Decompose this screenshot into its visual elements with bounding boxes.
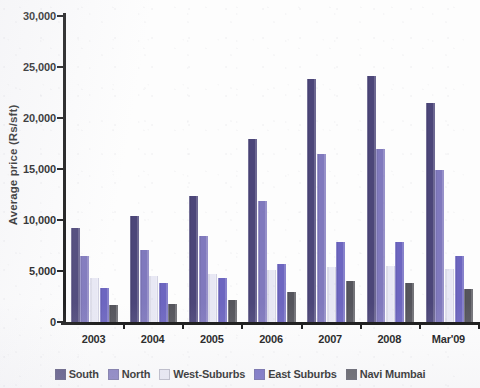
legend-item: South	[55, 368, 99, 380]
bar-fill	[386, 266, 395, 322]
bar	[90, 278, 99, 322]
y-axis-tick-label: 0	[50, 316, 56, 328]
gridline	[64, 67, 478, 68]
legend-item: West-Suburbs	[159, 368, 245, 380]
bar	[336, 242, 345, 322]
bar-fill	[228, 300, 237, 322]
bar-fill	[307, 79, 316, 322]
y-axis-tick-label: 5,000	[29, 265, 56, 277]
x-axis-tick	[419, 322, 421, 329]
bar-fill	[395, 242, 404, 322]
bar	[307, 79, 316, 322]
bar	[435, 170, 444, 322]
bar-fill	[405, 283, 414, 322]
bar-fill	[90, 278, 99, 322]
bar-fill	[336, 242, 345, 322]
bar	[267, 270, 276, 322]
y-axis-tick-label: 15,000	[23, 163, 56, 175]
bar	[405, 283, 414, 322]
gridline	[64, 118, 478, 119]
bar-fill	[346, 281, 355, 322]
bar	[208, 274, 217, 322]
bar-fill	[130, 216, 139, 322]
bar	[376, 149, 385, 322]
bar	[199, 236, 208, 322]
bar-fill	[258, 201, 267, 322]
bar-fill	[199, 236, 208, 322]
bar-fill	[168, 304, 177, 322]
x-axis-labels: 200320042005200620072008Mar'09	[64, 333, 478, 351]
bar	[140, 250, 149, 322]
bar-fill	[100, 288, 109, 322]
x-axis-label: 2004	[141, 333, 165, 345]
y-axis-tick	[57, 168, 65, 170]
bar	[367, 76, 376, 322]
legend-label: South	[69, 368, 99, 380]
bar	[130, 216, 139, 322]
x-axis-label: 2006	[259, 333, 283, 345]
bar	[258, 201, 267, 322]
bar-fill	[287, 292, 296, 322]
x-axis-tick	[360, 322, 362, 329]
y-axis-tick-label: 25,000	[23, 61, 56, 73]
bar	[159, 283, 168, 322]
y-axis-tick-label: 10,000	[23, 214, 56, 226]
bar-fill	[426, 103, 435, 322]
bar-fill	[445, 269, 454, 322]
y-axis-tick-label: 20,000	[23, 112, 56, 124]
legend-item: East Suburbs	[254, 368, 337, 380]
bar-fill	[277, 264, 286, 322]
y-axis-tick	[57, 66, 65, 68]
legend-label: East Suburbs	[268, 368, 337, 380]
gridline	[64, 169, 478, 170]
bar-fill	[218, 278, 227, 322]
bar	[317, 154, 326, 322]
bar	[277, 264, 286, 322]
bar-fill	[327, 267, 336, 322]
y-axis-tick	[57, 321, 65, 323]
legend-item: Navi Mumbai	[346, 368, 426, 380]
bar-fill	[367, 76, 376, 322]
y-axis-tick	[57, 270, 65, 272]
legend-label: West-Suburbs	[173, 368, 245, 380]
legend-swatch-icon	[159, 369, 170, 380]
bar-fill	[267, 270, 276, 322]
x-axis-tick	[182, 322, 184, 329]
plot-area: 05,00010,00015,00020,00025,00030,000	[64, 16, 478, 322]
bar-fill	[208, 274, 217, 322]
bar-fill	[435, 170, 444, 322]
bar-fill	[189, 196, 198, 322]
bar	[109, 305, 118, 322]
legend-label: Navi Mumbai	[360, 368, 426, 380]
bar	[426, 103, 435, 322]
legend-swatch-icon	[346, 369, 357, 380]
bar	[149, 276, 158, 322]
x-axis-tick	[301, 322, 303, 329]
gridline	[64, 220, 478, 221]
x-axis-label: 2008	[377, 333, 401, 345]
bar	[464, 289, 473, 322]
bar	[248, 139, 257, 322]
x-axis-label: 2003	[82, 333, 106, 345]
legend-swatch-icon	[254, 369, 265, 380]
y-axis-tick	[57, 117, 65, 119]
bar-fill	[464, 289, 473, 322]
bar	[218, 278, 227, 322]
bar	[287, 292, 296, 322]
bar-fill	[455, 256, 464, 322]
bar	[189, 196, 198, 322]
bar	[228, 300, 237, 322]
x-axis-label: 2007	[318, 333, 342, 345]
bar	[80, 256, 89, 322]
x-axis-label: Mar'09	[432, 333, 465, 345]
y-axis-tick-label: 30,000	[23, 10, 56, 22]
bar-chart-figure: Average price (Rs/sft) 05,00010,00015,00…	[0, 0, 480, 388]
legend-item: North	[108, 368, 150, 380]
bar	[168, 304, 177, 322]
bar-fill	[317, 154, 326, 322]
y-axis-tick	[57, 15, 65, 17]
y-axis-title-text: Average price (Rs/sft)	[7, 105, 19, 226]
bar-fill	[248, 139, 257, 322]
bar	[71, 228, 80, 322]
bar-fill	[140, 250, 149, 322]
